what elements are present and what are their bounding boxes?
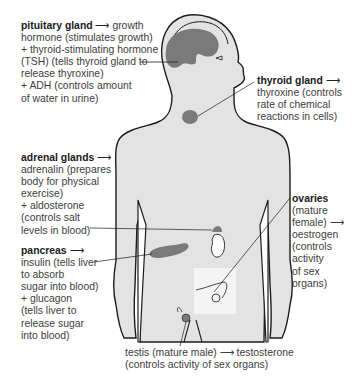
thyroid-icon [182,110,198,124]
pancreas-title: pancreas [21,245,67,256]
kidney-icon [211,234,224,257]
pituitary-label: pituitary gland ⟶ growth hormone (stimul… [21,20,158,105]
ovaries-title: ovaries [292,193,328,204]
testis-label: testis (mature male) ⟶ testosterone (con… [125,347,294,371]
adrenal-title: adrenal glands [21,152,94,163]
ovaries-label: ovaries (mature female) ⟶ oestrogen (con… [292,193,344,290]
adrenal-label: adrenal glands ⟶ adrenalin (prepares bod… [21,152,111,237]
pituitary-title: pituitary gland [21,20,93,31]
thyroid-label: thyroid gland ⟶ thyroxine (controls rate… [257,75,342,123]
testis-icon [182,314,190,322]
thyroid-title: thyroid gland [257,75,323,86]
pancreas-label: pancreas ⟶ insulin (tells liver to absor… [21,245,98,342]
